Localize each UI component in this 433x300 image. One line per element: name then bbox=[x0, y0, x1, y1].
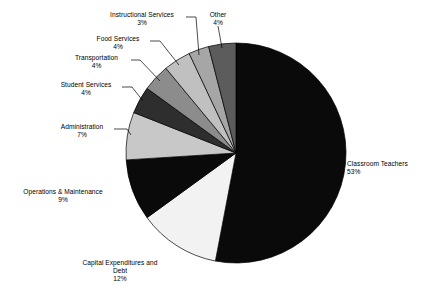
pie-label-classroom-teachers-name: Classroom Teachers bbox=[347, 160, 408, 167]
pie-label-operations-and-maintenance-pct: 9% bbox=[8, 196, 118, 204]
pie-label-instructional-services-pct: 3% bbox=[96, 19, 188, 27]
pie-label-transportation-name: Transportation bbox=[75, 54, 118, 61]
pie-label-student-services-pct: 4% bbox=[51, 89, 121, 97]
pie-label-administration-name: Administration bbox=[61, 123, 103, 130]
pie-label-capital-expenditures-and-debt-name-line2: Debt bbox=[60, 267, 180, 275]
pie-label-food-services-name: Food Services bbox=[97, 35, 140, 42]
pie-label-operations-and-maintenance-name: Operations & Maintenance bbox=[23, 188, 102, 195]
pie-label-classroom-teachers: Classroom Teachers 53% bbox=[347, 160, 433, 176]
pie-label-transportation: Transportation 4% bbox=[63, 54, 130, 70]
pie-label-capital-expenditures-and-debt-name-line1: Capital Expenditures and bbox=[83, 259, 158, 266]
pie-label-food-services-pct: 4% bbox=[87, 43, 149, 51]
pie-label-administration-pct: 7% bbox=[52, 131, 112, 139]
pie-label-instructional-services: Instructional Services 3% bbox=[96, 11, 188, 27]
pie-label-other: Other 4% bbox=[190, 11, 246, 27]
pie-label-food-services: Food Services 4% bbox=[87, 35, 149, 51]
pie-slices bbox=[126, 43, 346, 263]
pie-label-instructional-services-name: Instructional Services bbox=[110, 11, 174, 18]
pie-chart-figure bbox=[0, 0, 433, 300]
pie-label-capital-expenditures-and-debt-pct: 12% bbox=[60, 275, 180, 283]
pie-label-transportation-pct: 4% bbox=[63, 62, 130, 70]
pie-label-other-pct: 4% bbox=[190, 19, 246, 27]
pie-label-capital-expenditures-and-debt: Capital Expenditures and Debt 12% bbox=[60, 259, 180, 284]
pie-label-student-services: Student Services 4% bbox=[51, 81, 121, 97]
chart-page: Instructional Services 3% Other 4% Food … bbox=[0, 0, 433, 300]
pie-label-administration: Administration 7% bbox=[52, 123, 112, 139]
pie-label-classroom-teachers-pct: 53% bbox=[347, 168, 433, 176]
pie-label-operations-and-maintenance: Operations & Maintenance 9% bbox=[8, 188, 118, 204]
pie-label-other-name: Other bbox=[210, 11, 227, 18]
pie-label-student-services-name: Student Services bbox=[61, 81, 112, 88]
